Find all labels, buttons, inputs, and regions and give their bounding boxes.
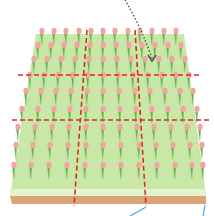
tulip-field-illustration: [0, 0, 214, 216]
pointer-lines: [130, 205, 205, 216]
field-drawing: [0, 0, 214, 216]
pointer-line-right: [203, 205, 205, 216]
ground: [10, 34, 206, 196]
soil-edge: [10, 196, 206, 204]
pointer-line-center: [130, 207, 146, 216]
